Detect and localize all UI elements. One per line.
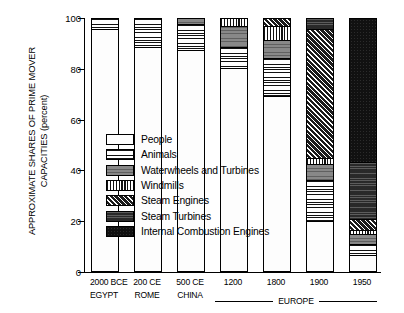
y-tick-label: 80 [70,63,81,74]
europe-group-bracket: EUROPE [215,295,377,307]
legend-item: Steam Engines [106,193,320,208]
bar-segment [350,245,376,256]
y-tick-label: 60 [70,114,81,125]
x-tick-label: 1200 [219,277,247,287]
y-axis-title-container: APPROXIMATE SHARES OF PRIME MOVER CAPACI… [0,0,40,285]
legend-item: People [106,132,320,147]
legend-label: People [141,134,172,145]
bar-segment [178,19,204,25]
legend-swatch [106,180,134,191]
x-tick-label: 1900 [305,277,333,287]
bar-segment [264,27,290,40]
bar-segment [92,19,118,30]
x-tick-label: 2000 BCE [90,277,118,287]
bar-segment [221,19,247,27]
x-tick-label: 1950 [348,277,376,287]
legend-label: Windmills [141,180,184,191]
bar-segment [135,19,161,48]
legend-swatch [106,226,134,237]
legend-label: Internal Combustion Engines [141,226,269,237]
bar-segment [350,235,376,246]
legend-item: Internal Combustion Engines [106,224,320,239]
y-tick-label: 40 [70,165,81,176]
legend-item: Windmills [106,178,320,193]
legend-label: Steam Engines [141,195,209,206]
bar-segment [264,19,290,27]
legend-swatch [106,149,134,160]
bracket-line-left [215,301,273,302]
x-tick-label: 1800 [262,277,290,287]
legend-swatch [106,165,134,176]
bar-segment [350,19,376,163]
legend-swatch [106,211,134,222]
bar-segment [350,220,376,231]
bar-segment [350,231,376,234]
legend-item: Waterwheels and Turbines [106,163,320,178]
y-axis-title: APPROXIMATE SHARES OF PRIME MOVER CAPACI… [26,10,50,272]
bar-segment [264,41,290,59]
bar-segment [350,256,376,271]
legend-item: Animals [106,147,320,162]
legend-item: Steam Turbines [106,208,320,223]
x-axis: 2000 BCE200 CE500 CE1200180019001950 EGY… [84,274,380,313]
y-tick-label: 20 [70,216,81,227]
y-axis-title-line-2: CAPACITIES (percent) [38,10,50,272]
bar-segment [221,48,247,69]
x-tick-sublabel: ROME [133,290,161,300]
legend-swatch [106,134,134,145]
x-tick-sublabel: EGYPT [90,290,118,300]
bar-segment [221,27,247,48]
europe-group-label: EUROPE [273,296,319,306]
stacked-bar-chart-figure: APPROXIMATE SHARES OF PRIME MOVER CAPACI… [0,0,404,313]
x-tick-label: 200 CE [133,277,161,287]
x-tick-label: 500 CE [176,277,204,287]
legend-swatch [106,195,134,206]
x-tick-sublabel: CHINA [176,290,204,300]
bar-1950[interactable] [349,18,377,272]
y-tick-label: 0 [76,267,81,278]
bar-segment [178,25,204,51]
legend-label: Animals [141,149,177,160]
bracket-line-right [319,301,377,302]
legend-label: Steam Turbines [141,211,211,222]
chart-legend: PeopleAnimalsWaterwheels and TurbinesWin… [106,132,320,239]
legend-label: Waterwheels and Turbines [141,165,259,176]
bar-segment [307,19,333,30]
y-tick-label: 100 [65,13,81,24]
bar-segment [264,59,290,97]
y-axis-title-line-1: APPROXIMATE SHARES OF PRIME MOVER [26,10,38,272]
x-axis-labels-row: 2000 BCE200 CE500 CE1200180019001950 [84,277,380,287]
bar-segment [350,163,376,221]
